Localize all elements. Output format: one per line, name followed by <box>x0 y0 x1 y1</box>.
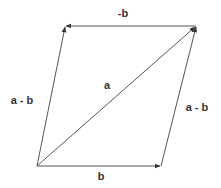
vector-diagram: -b a a - b a - b b <box>0 0 221 188</box>
vector-a-minus-b-right-arrow <box>161 27 196 166</box>
label-a-minus-b-left: a - b <box>11 94 34 106</box>
label-a-minus-b-right: a - b <box>186 101 209 113</box>
label-b: b <box>98 170 105 182</box>
label-a: a <box>104 79 111 91</box>
label-neg-b: -b <box>118 7 129 19</box>
